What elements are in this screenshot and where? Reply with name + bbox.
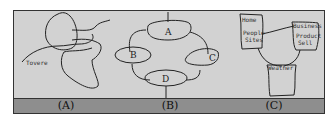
sketch-tail [22, 34, 93, 62]
node-b-label: B [130, 50, 137, 60]
box-home-title: Home [242, 16, 257, 23]
node-a-label: A [164, 27, 172, 37]
sketch-loop-lower [61, 39, 101, 88]
panel-b-ring: A B C D [115, 12, 219, 98]
ring-path [129, 30, 208, 80]
box-business-line-2: Sell [298, 39, 313, 46]
diagram-canvas: Tovere A B C D Home People Sites Busines… [0, 0, 336, 121]
node-d-label: D [162, 74, 169, 84]
box-weather-title: Weather [268, 64, 294, 71]
node-c-label: C [209, 53, 216, 63]
sketch-line-right [72, 20, 110, 30]
annotation-tovere: Tovere [26, 59, 48, 66]
panel-c-boxes: Home People Sites Business Product Sell … [240, 14, 322, 96]
box-business-line-1: Product [296, 32, 322, 39]
panel-a-sketch: Tovere [22, 13, 110, 88]
link-home-business [262, 26, 294, 34]
box-business-title: Business [293, 22, 322, 29]
box-home-line-2: Sites [245, 36, 263, 43]
